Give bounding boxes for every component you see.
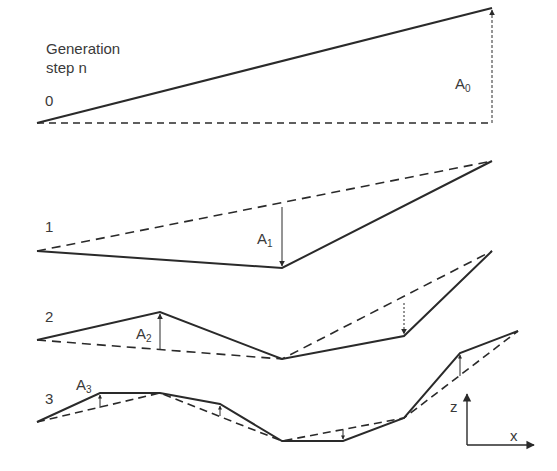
step-0-profile [37, 8, 492, 123]
step-3-profile [37, 331, 518, 441]
amplitude-a0-label: A0 [455, 75, 471, 94]
step-1-label: 1 [45, 218, 53, 235]
x-axis-label: x [510, 427, 518, 444]
step-0-label: 0 [45, 92, 53, 109]
z-axis-label: z [450, 398, 458, 415]
axes-indicator [467, 394, 534, 445]
amplitude-a2-label: A2 [136, 325, 152, 344]
title-line2: step n [46, 59, 87, 76]
amplitude-a1-label: A1 [257, 230, 273, 249]
amplitude-a3-label: A3 [76, 376, 92, 395]
title-line1: Generation [46, 40, 120, 57]
step-1-profile [37, 161, 492, 268]
step-2-label: 2 [45, 308, 53, 325]
step-3-label: 3 [45, 390, 53, 407]
